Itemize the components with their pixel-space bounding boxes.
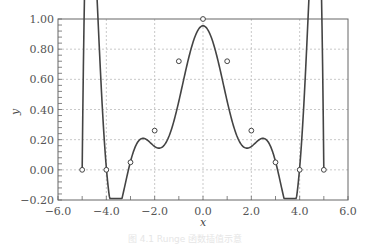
y-tick-label: 1.00 bbox=[30, 13, 55, 26]
data-point-marker bbox=[152, 128, 157, 133]
y-tick-labels: −0.200.000.200.400.600.801.00 bbox=[20, 13, 54, 207]
grid-lines bbox=[58, 19, 348, 200]
figure-caption: 图 4.1 Runge 函数插值示意 bbox=[0, 232, 370, 245]
data-point-marker bbox=[297, 167, 302, 172]
data-point-marker bbox=[225, 59, 230, 64]
y-tick-label: 0.20 bbox=[30, 134, 55, 147]
data-point-marker bbox=[321, 167, 326, 172]
x-axis-label: x bbox=[200, 216, 207, 229]
line-chart: −6.0−4.0−2.00.02.04.06.0 −0.200.000.200.… bbox=[0, 0, 370, 245]
y-tick-label: −0.20 bbox=[20, 194, 54, 207]
data-point-marker bbox=[128, 160, 133, 165]
data-point-marker bbox=[273, 160, 278, 165]
x-tick-label: 6.0 bbox=[339, 205, 357, 218]
data-point-marker bbox=[176, 59, 181, 64]
y-axis-label: y bbox=[9, 108, 22, 116]
data-point-marker bbox=[201, 17, 206, 22]
y-tick-label: 0.00 bbox=[30, 164, 55, 177]
x-tick-label: 2.0 bbox=[243, 205, 261, 218]
x-tick-label: −4.0 bbox=[93, 205, 120, 218]
y-tick-label: 0.60 bbox=[30, 73, 55, 86]
y-tick-label: 0.40 bbox=[30, 104, 55, 117]
data-point-marker bbox=[249, 128, 254, 133]
data-point-marker bbox=[104, 167, 109, 172]
y-tick-label: 0.80 bbox=[30, 43, 55, 56]
x-tick-label: −2.0 bbox=[141, 205, 168, 218]
data-point-marker bbox=[80, 167, 85, 172]
x-tick-label: 4.0 bbox=[291, 205, 309, 218]
